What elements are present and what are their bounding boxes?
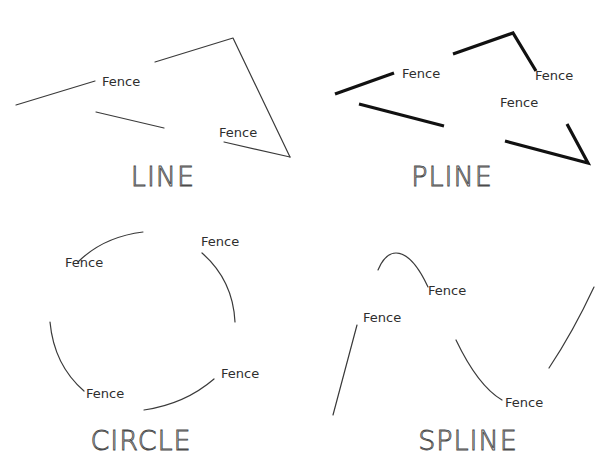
pline-segment bbox=[505, 124, 588, 163]
fence-label: Fence bbox=[65, 255, 103, 270]
fence-label: Fence bbox=[402, 66, 440, 81]
circle-arc bbox=[50, 322, 84, 391]
panel-title-pline: PLINE bbox=[411, 161, 493, 192]
fence-label: Fence bbox=[363, 310, 401, 325]
spline-curve bbox=[456, 340, 502, 400]
fence-label: Fence bbox=[219, 125, 257, 140]
fence-linetype-diagram: Fence Fence LINE Fence Fence Fence PLINE… bbox=[0, 0, 611, 471]
fence-label: Fence bbox=[500, 95, 538, 110]
fence-label: Fence bbox=[201, 234, 239, 249]
panel-title-line: LINE bbox=[131, 161, 195, 192]
panel-pline: Fence Fence Fence PLINE bbox=[335, 33, 588, 192]
pline-segment bbox=[453, 33, 536, 71]
circle-arc bbox=[202, 253, 235, 322]
panel-spline: Fence Fence Fence SPLINE bbox=[333, 253, 594, 456]
line-segment bbox=[16, 81, 95, 105]
line-segment bbox=[224, 142, 290, 157]
circle-arc bbox=[144, 379, 214, 410]
fence-label: Fence bbox=[221, 366, 259, 381]
fence-label: Fence bbox=[505, 395, 543, 410]
panel-circle: Fence Fence Fence Fence CIRCLE bbox=[50, 232, 259, 456]
pline-segment bbox=[359, 104, 444, 126]
spline-curve bbox=[333, 325, 357, 415]
spline-curve bbox=[549, 287, 594, 368]
panel-title-spline: SPLINE bbox=[418, 425, 518, 456]
spline-curve bbox=[378, 253, 428, 287]
fence-label: Fence bbox=[428, 283, 466, 298]
panel-title-circle: CIRCLE bbox=[90, 425, 191, 456]
line-segment bbox=[96, 112, 164, 128]
fence-label: Fence bbox=[86, 386, 124, 401]
fence-label: Fence bbox=[102, 74, 140, 89]
panel-line: Fence Fence LINE bbox=[16, 38, 290, 192]
pline-segment bbox=[335, 73, 394, 94]
fence-label: Fence bbox=[535, 68, 573, 83]
